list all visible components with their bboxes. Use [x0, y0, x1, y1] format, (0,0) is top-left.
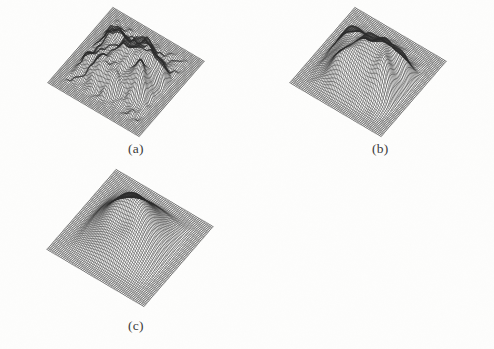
surface-panel-c	[8, 168, 252, 308]
figure-root: (a) (b) (c)	[0, 0, 494, 349]
wireframe-mesh-a	[10, 6, 242, 138]
surface-panel-a	[10, 6, 242, 138]
mesh-lines-c	[47, 170, 213, 307]
mesh-lines-a	[48, 8, 204, 137]
panel-caption-c: (c)	[128, 318, 144, 334]
panel-caption-b: (b)	[372, 141, 388, 157]
surface-panel-b	[252, 6, 484, 138]
wireframe-mesh-b	[252, 6, 484, 138]
mesh-lines-b	[290, 8, 446, 137]
panel-caption-a: (a)	[128, 141, 144, 157]
wireframe-mesh-c	[8, 168, 252, 308]
